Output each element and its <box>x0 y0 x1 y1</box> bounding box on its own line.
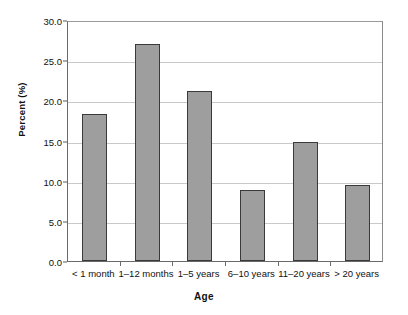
y-axis-tick-mark <box>63 141 67 142</box>
bars-group <box>68 22 382 261</box>
y-axis-tick-label: 25.0 <box>14 56 62 67</box>
x-axis-tick-label: 6–10 years <box>228 268 275 279</box>
x-axis-tick-mark <box>120 262 121 266</box>
y-axis-tick-mark <box>63 262 67 263</box>
y-axis-tick-mark <box>63 21 67 22</box>
bar <box>293 142 318 261</box>
bar <box>82 114 107 261</box>
x-axis-tick-label: < 1 month <box>72 268 115 279</box>
bar <box>345 185 370 261</box>
x-axis-tick-label: 11–20 years <box>278 268 330 279</box>
bar <box>240 190 265 261</box>
x-axis-tick-mark <box>225 262 226 266</box>
y-axis-tick-label: 15.0 <box>14 136 62 147</box>
y-axis-tick-label: 20.0 <box>14 96 62 107</box>
bar-chart-figure: Percent (%) 0.05.010.015.020.025.030.0 <… <box>0 0 408 315</box>
y-axis-tick-label: 10.0 <box>14 176 62 187</box>
x-axis-tick-mark <box>278 262 279 266</box>
x-axis-title: Age <box>0 291 408 302</box>
plot-area <box>67 21 383 262</box>
x-axis-tick-label: 1–5 years <box>178 268 220 279</box>
y-axis-tick-label: 5.0 <box>14 216 62 227</box>
x-axis-tick-mark <box>330 262 331 266</box>
y-axis-tick-mark <box>63 61 67 62</box>
x-axis-tick-label: 1–12 months <box>119 268 174 279</box>
bar <box>187 91 212 261</box>
y-axis-tick-mark <box>63 181 67 182</box>
y-axis-tick-labels: 0.05.010.015.020.025.030.0 <box>14 0 62 315</box>
y-axis-tick-label: 0.0 <box>14 257 62 268</box>
bar <box>135 44 160 261</box>
y-axis-tick-label: 30.0 <box>14 16 62 27</box>
x-axis-tick-mark <box>172 262 173 266</box>
y-axis-tick-mark <box>63 221 67 222</box>
y-axis-tick-mark <box>63 101 67 102</box>
x-axis-tick-label: > 20 years <box>334 268 379 279</box>
